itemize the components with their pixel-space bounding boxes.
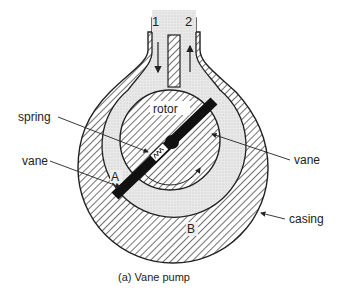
vane-pump-diagram: 1 2 rotor spring vane vane A B casing (a…	[0, 0, 341, 295]
vane-right-label: vane	[294, 154, 320, 166]
chamber-a-label: A	[111, 171, 119, 183]
rotor-label: rotor	[153, 103, 178, 115]
chamber-b-label: B	[187, 223, 195, 235]
port-divider	[168, 35, 180, 87]
outlet-port-label: 2	[185, 16, 192, 28]
casing-leader	[261, 213, 285, 219]
pump-drawing	[0, 0, 341, 295]
vane-left-label: vane	[22, 155, 48, 167]
casing-label: casing	[289, 213, 324, 225]
inlet-port-label: 1	[152, 16, 159, 28]
spring-label: spring	[18, 111, 51, 123]
figure-caption: (a) Vane pump	[118, 271, 190, 283]
